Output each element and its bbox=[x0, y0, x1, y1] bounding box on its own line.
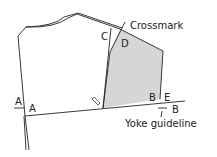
label-a-left: A bbox=[15, 97, 22, 107]
label-crossmark: Crossmark bbox=[130, 21, 183, 31]
label-e: E bbox=[164, 93, 170, 103]
label-d: D bbox=[121, 39, 129, 49]
label-b-outer: B bbox=[172, 105, 179, 115]
label-c: C bbox=[101, 32, 108, 42]
pin-icon bbox=[92, 97, 100, 105]
label-yoke-guideline: Yoke guideline bbox=[125, 119, 197, 129]
pattern-diagram bbox=[0, 0, 217, 157]
label-b-inner: B bbox=[149, 93, 156, 103]
label-a-right: A bbox=[29, 104, 36, 114]
